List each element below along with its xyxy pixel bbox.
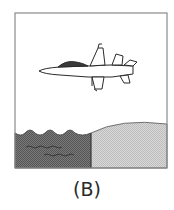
figure-caption: (B)	[0, 176, 174, 202]
land-region	[91, 122, 167, 168]
water-region	[15, 130, 91, 168]
diagram-panel	[0, 0, 174, 176]
